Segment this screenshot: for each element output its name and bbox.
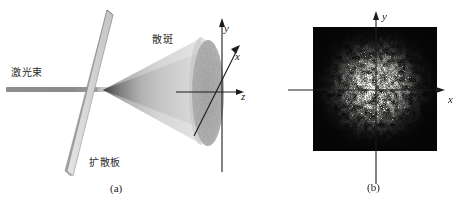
caption-panel-b: (b) [367, 181, 380, 193]
axis-label-y-panel-b: y [382, 10, 387, 22]
axis-label-x-panel-a: x [235, 50, 240, 62]
label-diffuser-plate: 扩散板 [89, 154, 121, 169]
label-speckle: 散斑 [152, 31, 173, 46]
axis-label-x-panel-b: x [448, 93, 453, 105]
axis-label-y-panel-a: y [224, 22, 229, 34]
axes-2d-panel-b [288, 8, 448, 188]
axis-label-z-panel-a: z [241, 90, 245, 102]
caption-panel-a: (a) [110, 182, 122, 194]
label-laser-beam: 激光束 [11, 64, 43, 79]
figure-speckle-formation: 激光束 扩散板 散斑 y x z (a) y x (b) [0, 0, 460, 203]
